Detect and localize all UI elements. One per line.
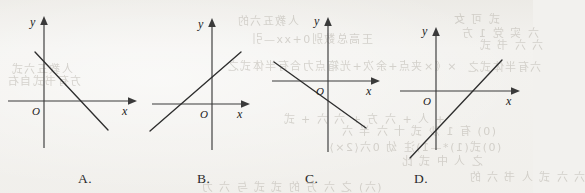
origin-label-b: O: [200, 108, 208, 120]
graph-c: x y O: [265, 0, 390, 165]
origin-label-a: O: [32, 105, 40, 117]
option-panel-c[interactable]: x y O C.: [265, 0, 390, 193]
option-label-a: A.: [78, 171, 92, 187]
y-axis-arrow-d: [432, 27, 440, 36]
option-label-d: D.: [414, 171, 428, 187]
x-axis-label-b: x: [236, 107, 243, 121]
x-axis-label-c: x: [365, 84, 372, 98]
plotted-line-a: [35, 52, 108, 130]
option-panel-a[interactable]: x y O A.: [0, 0, 140, 193]
origin-label-d: O: [423, 95, 431, 107]
x-axis-label-a: x: [121, 104, 128, 118]
option-label-c: C.: [305, 171, 318, 187]
x-axis-arrow-d: [511, 87, 520, 95]
y-axis-label-d: y: [421, 24, 428, 38]
y-axis-arrow-c: [324, 17, 332, 26]
option-panel-d[interactable]: x y O D.: [390, 0, 533, 193]
x-axis-label-d: x: [505, 94, 512, 108]
plotted-line-d: [410, 60, 502, 158]
option-panel-b[interactable]: x y O B.: [140, 0, 265, 193]
y-axis-arrow-a: [40, 16, 48, 25]
graph-b: x y O: [140, 0, 265, 160]
x-axis-arrow-b: [241, 100, 250, 108]
graph-a: x y O: [0, 0, 140, 160]
y-axis-label-b: y: [197, 17, 204, 31]
plotted-line-b: [150, 52, 241, 131]
y-axis-label-c: y: [313, 14, 320, 28]
origin-label-c: O: [316, 85, 324, 97]
x-axis-arrow-c: [371, 77, 380, 85]
graph-d: x y O: [390, 0, 533, 170]
option-label-b: B.: [197, 171, 210, 187]
x-axis-arrow-a: [128, 97, 137, 105]
y-axis-label-a: y: [29, 15, 36, 29]
y-axis-arrow-b: [208, 18, 216, 27]
